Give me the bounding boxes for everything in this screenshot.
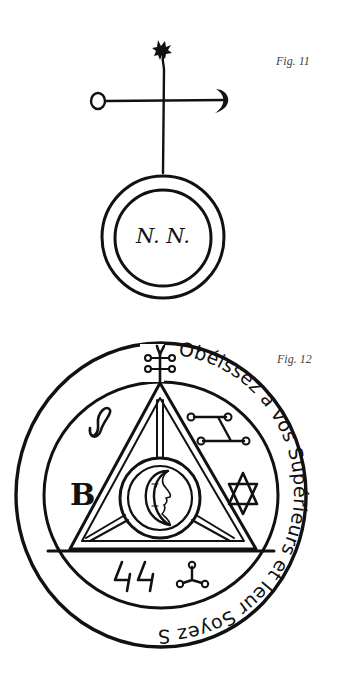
figure-12: Obéissez a vos Supérieurs et leur Soyez … xyxy=(0,0,312,648)
circle-icon xyxy=(91,93,105,109)
figure-eight-sigil xyxy=(90,408,111,437)
crescent-moon-face-icon xyxy=(146,471,171,525)
medallion-outer-ring xyxy=(120,458,200,538)
letter-b: B xyxy=(70,477,95,512)
hebrew-like-glyphs xyxy=(115,562,153,591)
crossbar xyxy=(106,100,226,101)
seal-initials: N. N. xyxy=(135,224,190,248)
trefoil-sigil xyxy=(177,562,208,587)
figure-11: N. N. xyxy=(91,40,228,298)
vertical-staff xyxy=(163,56,164,173)
dot-linked-sigil xyxy=(188,414,250,445)
illustration-canvas: N. N. Obéissez a vos Supérieurs et leur … xyxy=(0,0,340,678)
